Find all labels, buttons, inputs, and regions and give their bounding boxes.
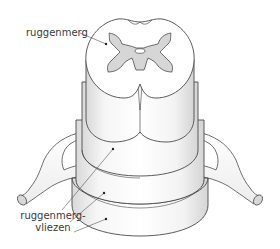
spinal-cord-diagram: ruggenmerg ruggenmerg- vliezen	[0, 0, 280, 249]
label-meninges-line2: vliezen	[20, 222, 86, 234]
label-meninges: ruggenmerg- vliezen	[20, 210, 86, 234]
label-meninges-line1: ruggenmerg-	[20, 210, 86, 222]
pointer-dot-meninx-1	[112, 148, 114, 150]
label-spinal-cord: ruggenmerg	[26, 27, 88, 39]
central-canal	[135, 49, 145, 54]
pointer-dot-spinal-cord	[105, 43, 107, 45]
pointer-dot-meninx-3	[105, 218, 107, 220]
pointer-dot-meninx-2	[103, 192, 105, 194]
